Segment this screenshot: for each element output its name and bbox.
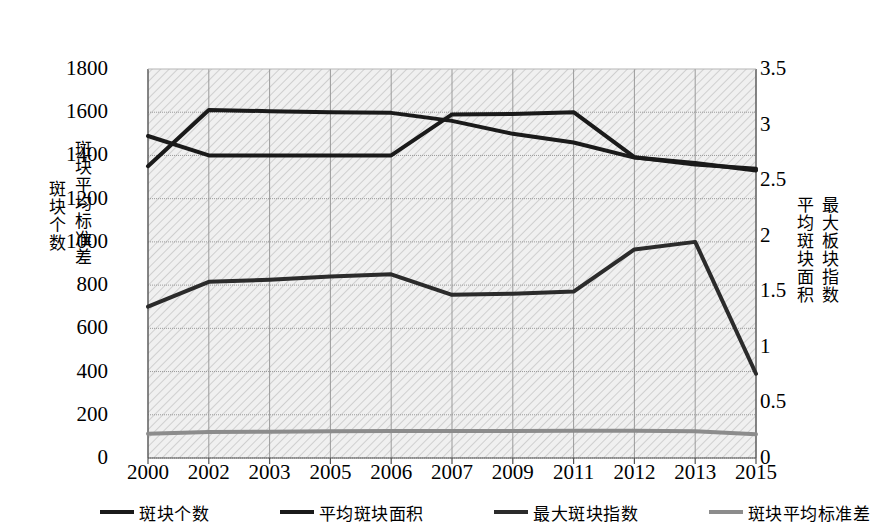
x-tick-label: 2003	[249, 462, 291, 483]
right-tick-label: 3.5	[760, 58, 820, 79]
legend-swatch-icon	[100, 510, 134, 514]
left-tick-label: 400	[44, 361, 108, 382]
x-tick-label: 2007	[431, 462, 473, 483]
legend-label: 平均斑块面积	[319, 500, 424, 525]
legend-label: 斑块平均标准差	[748, 500, 871, 525]
right-tick-label: 2.5	[760, 169, 820, 190]
right-tick-label: 1	[760, 336, 820, 357]
legend-label: 斑块个数	[139, 500, 209, 525]
left-tick-label: 1400	[44, 144, 108, 165]
x-tick-label: 2011	[553, 462, 594, 483]
left-tick-label: 0	[44, 447, 108, 468]
right-tick-label: 0.5	[760, 391, 820, 412]
x-tick-label: 2002	[188, 462, 230, 483]
legend-item-1[interactable]: 斑块个数	[100, 500, 209, 525]
plot-area	[0, 0, 889, 528]
chart-legend: 斑块个数平均斑块面积最大斑块指数斑块平均标准差	[100, 498, 870, 526]
x-tick-label: 2012	[613, 462, 655, 483]
right-axis-title-outer: 最大板块指数	[820, 196, 837, 304]
x-tick-label: 2005	[309, 462, 351, 483]
x-tick-label: 2000	[127, 462, 169, 483]
x-tick-label: 2013	[674, 462, 716, 483]
left-tick-label: 1200	[44, 188, 108, 209]
left-tick-label: 1800	[44, 58, 108, 79]
legend-item-2[interactable]: 平均斑块面积	[280, 500, 424, 525]
x-tick-label: 2009	[492, 462, 534, 483]
right-tick-label: 3	[760, 114, 820, 135]
line-chart: 斑块个数 斑块平均标准差 平均斑块面积 最大板块指数 0200400600800…	[0, 0, 889, 528]
left-tick-label: 1600	[44, 101, 108, 122]
legend-swatch-icon	[494, 510, 528, 514]
x-tick-label: 2006	[370, 462, 412, 483]
left-tick-label: 800	[44, 274, 108, 295]
legend-item-3[interactable]: 最大斑块指数	[494, 500, 638, 525]
legend-label: 最大斑块指数	[533, 500, 638, 525]
right-tick-label: 1.5	[760, 280, 820, 301]
left-tick-label: 1000	[44, 231, 108, 252]
x-tick-label: 2015	[735, 462, 777, 483]
right-tick-label: 2	[760, 225, 820, 246]
legend-swatch-icon	[709, 510, 743, 514]
legend-swatch-icon	[280, 510, 314, 514]
left-tick-label: 600	[44, 317, 108, 338]
legend-item-4[interactable]: 斑块平均标准差	[709, 500, 871, 525]
left-tick-label: 200	[44, 404, 108, 425]
